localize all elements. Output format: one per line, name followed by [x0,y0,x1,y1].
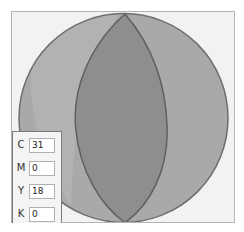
yellow-input[interactable] [29,184,55,199]
cmyk-row-m: M [13,160,61,176]
cyan-input[interactable] [29,138,55,153]
yellow-label: Y [13,183,29,199]
black-label: K [13,206,29,222]
cmyk-row-c: C [13,137,61,153]
black-input[interactable] [29,207,55,222]
cmyk-values-panel: C M Y K [12,131,62,223]
magenta-input[interactable] [29,161,55,176]
cmyk-row-y: Y [13,183,61,199]
cmyk-row-k: K [13,206,61,222]
cyan-label: C [13,137,29,153]
magenta-label: M [13,160,29,176]
